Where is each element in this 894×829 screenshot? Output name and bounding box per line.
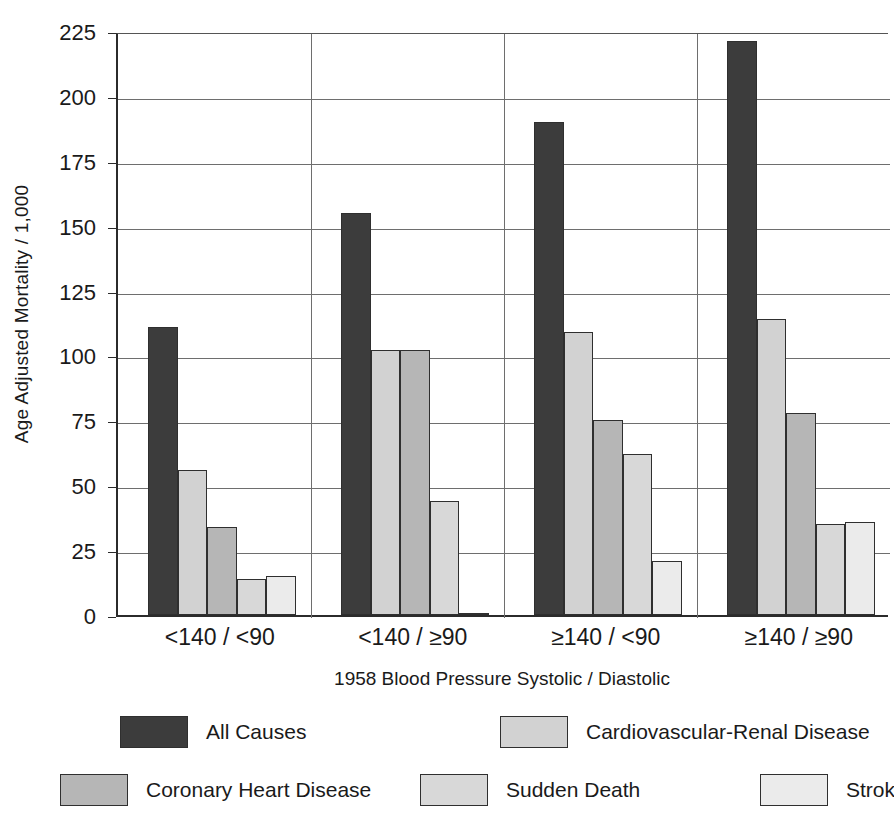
y-tick-mark	[108, 228, 116, 229]
y-tick-label: 125	[59, 280, 96, 306]
y-tick-mark	[108, 617, 116, 618]
legend-label: Coronary Heart Disease	[146, 778, 371, 802]
y-tick-mark	[108, 487, 116, 488]
legend-label: Cardiovascular-Renal Disease	[586, 720, 870, 744]
x-tick-label: <140 / ≥90	[316, 624, 509, 651]
y-tick-label: 150	[59, 215, 96, 241]
bar	[652, 561, 682, 616]
bar	[845, 522, 875, 615]
x-tick-label: ≥140 / <90	[509, 624, 702, 651]
bar	[237, 579, 267, 615]
bar-group	[504, 31, 697, 615]
y-tick-label: 75	[72, 409, 96, 435]
bar	[757, 319, 787, 615]
legend-item[interactable]: Cardiovascular-Renal Disease	[500, 716, 870, 748]
y-tick-label: 225	[59, 20, 96, 46]
y-tick-mark	[108, 98, 116, 99]
x-tick-label: <140 / <90	[123, 624, 316, 651]
legend-item[interactable]: All Causes	[120, 716, 306, 748]
legend-item[interactable]: Coronary Heart Disease	[60, 774, 371, 806]
bar	[178, 470, 208, 615]
y-tick-label: 175	[59, 150, 96, 176]
legend-label: Sudden Death	[506, 778, 640, 802]
y-tick-mark	[108, 552, 116, 553]
bar	[816, 524, 846, 615]
y-tick-label: 0	[84, 604, 96, 630]
bar	[148, 327, 178, 615]
bar-group	[697, 31, 890, 615]
bar	[623, 454, 653, 615]
y-tick-label: 25	[72, 539, 96, 565]
bar	[727, 41, 757, 615]
y-tick-mark	[108, 293, 116, 294]
bar-group	[311, 31, 504, 615]
x-tick-label: ≥140 / ≥90	[702, 624, 894, 651]
y-tick-label: 200	[59, 85, 96, 111]
y-tick-label: 100	[59, 344, 96, 370]
legend-label: All Causes	[206, 720, 306, 744]
plot-area	[116, 33, 888, 617]
legend-row: All CausesCardiovascular-Renal Disease	[0, 708, 894, 764]
bar	[341, 213, 371, 615]
y-tick-label: 50	[72, 474, 96, 500]
bar	[786, 413, 816, 615]
x-axis-title: 1958 Blood Pressure Systolic / Diastolic	[116, 668, 888, 690]
bar	[207, 527, 237, 615]
bar	[534, 122, 564, 615]
legend-item[interactable]: Sudden Death	[420, 774, 640, 806]
legend-label: Stroke	[846, 778, 894, 802]
y-tick-mark	[108, 422, 116, 423]
x-axis-tick-labels: <140 / <90<140 / ≥90≥140 / <90≥140 / ≥90	[116, 624, 888, 658]
y-tick-mark	[108, 357, 116, 358]
legend-swatch	[60, 774, 128, 806]
bar	[430, 501, 460, 615]
legend-row: Coronary Heart DiseaseSudden DeathStroke	[0, 766, 894, 822]
bar	[266, 576, 296, 615]
y-tick-mark	[108, 163, 116, 164]
legend-swatch	[420, 774, 488, 806]
chart-figure: Age Adjusted Mortality / 1,000 025507510…	[0, 0, 894, 829]
bar	[371, 350, 401, 615]
bar-group	[118, 31, 311, 615]
bar	[400, 350, 430, 615]
y-tick-mark	[108, 33, 116, 34]
bar	[459, 613, 489, 615]
legend-item[interactable]: Stroke	[760, 774, 894, 806]
chart-legend: All CausesCardiovascular-Renal DiseaseCo…	[0, 700, 894, 829]
legend-swatch	[120, 716, 188, 748]
legend-swatch	[760, 774, 828, 806]
bar	[564, 332, 594, 615]
bar	[593, 420, 623, 615]
legend-swatch	[500, 716, 568, 748]
